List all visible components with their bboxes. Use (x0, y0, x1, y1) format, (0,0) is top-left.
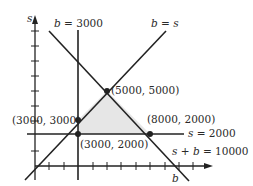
s-axis-label: s (27, 12, 33, 24)
label-b-equals-3000: b = 3000 (54, 17, 103, 29)
b-axis-label: b (172, 172, 179, 184)
label-point-3000-2000: (3000, 2000) (80, 138, 148, 150)
line-s-plus-b-equals-10000 (49, 31, 189, 181)
label-b-equals-s: b = s (151, 17, 179, 29)
label-s-equals-2000: s = 2000 (188, 127, 236, 139)
line-b-equals-s (25, 31, 166, 180)
s-axis (31, 15, 39, 180)
b-axis (35, 162, 213, 170)
vertex-5000-5000 (104, 88, 110, 94)
label-point-5000-5000: (5000, 5000) (111, 84, 179, 96)
feasible-region-diagram: s b b = 3000 b = s s = 2000 s + b = 1000… (0, 0, 253, 186)
vertex-3000-2000 (75, 131, 81, 137)
vertex-8000-2000 (147, 131, 153, 137)
label-point-8000-2000: (8000, 2000) (147, 113, 215, 125)
label-s-plus-b-equals-10000: s + b = 10000 (172, 145, 249, 157)
label-point-3000-3000: (3000, 3000) (12, 114, 80, 126)
